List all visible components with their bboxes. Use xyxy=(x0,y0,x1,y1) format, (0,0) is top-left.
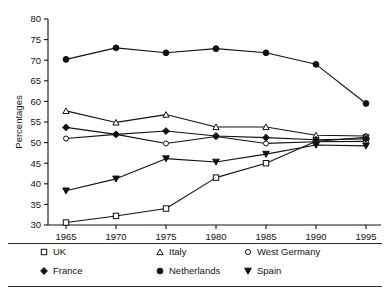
chart-legend: UKItalyWest GermanyFranceNetherlandsSpai… xyxy=(8,244,382,287)
y-tick-label: 40 xyxy=(30,178,41,189)
legend-marker-open-circle-icon xyxy=(246,250,251,255)
data-point xyxy=(164,141,169,146)
x-tick-label: 1970 xyxy=(105,231,126,242)
legend-item-france[interactable]: France xyxy=(41,265,83,276)
y-tick-label: 55 xyxy=(30,116,41,127)
data-point xyxy=(263,161,268,166)
legend-marker-open-square-icon xyxy=(41,249,46,254)
legend-label: West Germany xyxy=(257,246,320,257)
y-tick-label: 35 xyxy=(30,199,41,210)
y-tick-label: 75 xyxy=(30,34,41,45)
line-chart-figure: 3035404550556065707580 19651970197519801… xyxy=(0,0,390,291)
series-line xyxy=(66,48,366,104)
x-tick-label: 1980 xyxy=(205,231,226,242)
legend-label: Italy xyxy=(169,246,187,257)
y-tick-label: 70 xyxy=(30,55,41,66)
data-point xyxy=(63,56,69,62)
data-point xyxy=(113,213,118,218)
data-point xyxy=(63,220,68,225)
data-point xyxy=(113,45,119,51)
legend-item-spain[interactable]: Spain xyxy=(245,265,282,276)
data-point xyxy=(113,131,120,138)
legend-item-italy[interactable]: Italy xyxy=(157,246,187,257)
data-point xyxy=(263,134,270,141)
y-tick-label: 65 xyxy=(30,75,41,86)
legend-item-west-germany[interactable]: West Germany xyxy=(246,246,321,257)
series-netherlands xyxy=(63,45,369,106)
legend-marker-filled-diamond-icon xyxy=(41,268,48,275)
data-point xyxy=(313,61,319,67)
y-tick-label: 60 xyxy=(30,96,41,107)
data-point xyxy=(63,188,70,194)
x-tick-label: 1985 xyxy=(255,231,276,242)
legend-item-netherlands[interactable]: Netherlands xyxy=(157,265,220,276)
chart-canvas: 3035404550556065707580 19651970197519801… xyxy=(0,0,390,291)
series-line xyxy=(66,145,366,191)
legend-marker-filled-triangle-down-icon xyxy=(245,268,252,274)
data-point xyxy=(63,124,70,131)
x-tick-label: 1990 xyxy=(305,231,326,242)
legend-marker-filled-circle-icon xyxy=(157,268,163,274)
data-point xyxy=(213,46,219,52)
x-tick-label: 1995 xyxy=(355,231,376,242)
x-tick-label: 1975 xyxy=(155,231,176,242)
series-spain xyxy=(63,142,370,194)
data-point xyxy=(263,50,269,56)
data-point xyxy=(213,133,220,140)
series-uk xyxy=(63,135,368,226)
y-axis-ticks: 3035404550556065707580 xyxy=(30,13,48,230)
data-point xyxy=(363,101,369,107)
data-point xyxy=(64,136,69,141)
data-point xyxy=(213,175,218,180)
data-point xyxy=(163,206,168,211)
x-axis-ticks: 1965197019751980198519901995 xyxy=(55,225,376,242)
legend-item-uk[interactable]: UK xyxy=(41,246,67,257)
y-tick-label: 80 xyxy=(30,13,41,24)
legend-label: France xyxy=(53,265,83,276)
series-layer xyxy=(63,45,370,225)
legend-label: UK xyxy=(53,246,67,257)
data-point xyxy=(63,108,69,114)
data-point xyxy=(163,50,169,56)
y-tick-label: 30 xyxy=(30,219,41,230)
y-tick-label: 45 xyxy=(30,158,41,169)
legend-label: Spain xyxy=(257,265,281,276)
x-tick-label: 1965 xyxy=(55,231,76,242)
y-axis-title: Percentages xyxy=(13,95,24,149)
legend-marker-open-triangle-up-icon xyxy=(157,249,163,255)
y-tick-label: 50 xyxy=(30,137,41,148)
legend-label: Netherlands xyxy=(169,265,220,276)
data-point xyxy=(163,128,170,135)
